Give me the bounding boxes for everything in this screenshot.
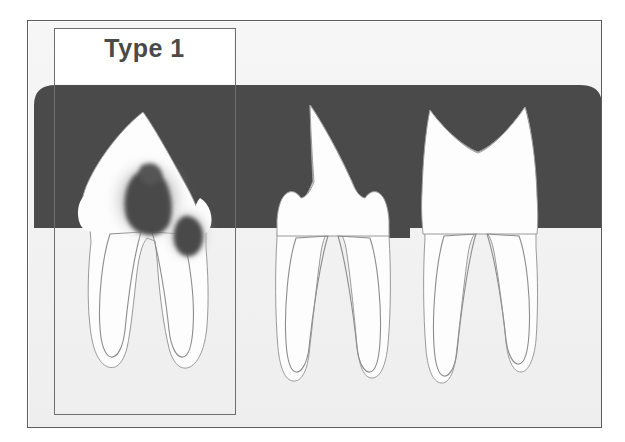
type-1-label: Type 1 xyxy=(55,33,234,63)
type-1-callout-box xyxy=(54,28,236,415)
figure-root: Type 1 xyxy=(0,0,625,442)
